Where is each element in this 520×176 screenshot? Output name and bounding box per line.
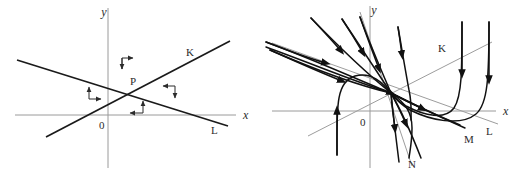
line-label-L: L [211,124,218,136]
direction-field-panel: y x 0 P K L [0,0,260,176]
line-label-M: M [464,133,474,145]
y-axis-label: y [370,3,377,17]
marker-left [89,87,101,99]
marker-right [163,86,175,98]
phase-portrait-panel: y x 0 K L M N [260,0,520,176]
figure-root: y x 0 P K L [0,0,520,176]
marker-top [122,58,133,69]
y-axis-label: y [100,5,107,19]
line-L [17,60,228,126]
trajectory-3-head [311,18,341,51]
origin-label: 0 [99,119,105,131]
trajectory-8-headA [398,27,402,55]
origin-label: 0 [360,116,366,128]
line-label-N: N [408,158,416,170]
x-axis-label: x [502,104,509,118]
line-K [46,41,230,137]
critical-point-label-P: P [130,75,136,87]
line-label-L: L [486,125,493,137]
line-label-K: K [438,42,446,54]
line-label-K: K [186,46,194,58]
trajectory-1b [266,47,391,93]
trajectory-2-head [270,50,342,81]
marker-bottom [130,101,143,113]
x-axis-label: x [242,108,249,122]
trajectory-4-head [342,19,363,53]
